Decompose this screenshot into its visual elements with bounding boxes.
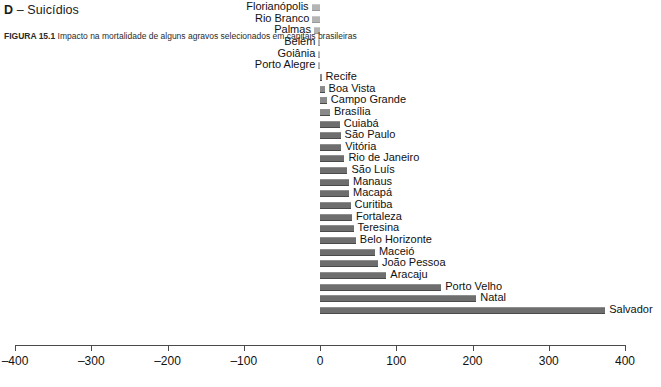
plot-area: FlorianópolisRio BrancoPalmasBelémGoiâni… <box>0 0 661 340</box>
chart-bar-row: João Pessoa <box>0 258 661 269</box>
axis-tick-label: –100 <box>230 354 257 368</box>
bar <box>320 249 375 256</box>
bar <box>320 167 347 174</box>
axis-tick <box>396 345 397 351</box>
chart-bar-row: São Luís <box>0 165 661 176</box>
bar <box>320 144 341 151</box>
axis-tick-label: 400 <box>615 354 635 368</box>
chart-bar-row: Cuiabá <box>0 119 661 130</box>
bar <box>320 121 340 128</box>
chart-bar-row: Manaus <box>0 177 661 188</box>
bar <box>320 132 341 139</box>
axis-tick <box>625 345 626 351</box>
figure-caption: FIGURA 15.1 Impacto na mortalidade de al… <box>4 31 654 41</box>
axis-tick-label: –400 <box>2 354 29 368</box>
bar <box>312 16 320 23</box>
bar-category-label: Aracaju <box>390 268 427 281</box>
chart-bar-row: São Paulo <box>0 130 661 141</box>
chart-bar-row: Macapá <box>0 188 661 199</box>
bar-category-label: Salvador <box>609 303 652 316</box>
bar <box>320 307 605 314</box>
axis-tick-label: 0 <box>317 354 324 368</box>
bar <box>320 284 441 291</box>
chart-bar-row: Teresina <box>0 223 661 234</box>
axis-tick <box>15 345 16 351</box>
chart-bar-row: Campo Grande <box>0 95 661 106</box>
bar <box>320 179 349 186</box>
bar <box>318 62 320 69</box>
bar <box>320 155 344 162</box>
bar <box>320 74 322 81</box>
chart-bar-row: Salvador <box>0 305 661 316</box>
axis-tick <box>91 345 92 351</box>
axis-tick <box>168 345 169 351</box>
bar <box>312 4 320 11</box>
bar <box>320 190 349 197</box>
bar <box>320 260 378 267</box>
figure-caption-text: Impacto na mortalidade de alguns agravos… <box>58 31 357 41</box>
chart-bar-row: Fortaleza <box>0 212 661 223</box>
bar <box>320 214 352 221</box>
axis-tick <box>473 345 474 351</box>
bar <box>320 202 351 209</box>
figure-number: FIGURA 15.1 <box>4 31 55 41</box>
axis-tick <box>244 345 245 351</box>
bar <box>320 97 327 104</box>
axis-tick-label: 100 <box>386 354 406 368</box>
chart-bar-row: Belo Horizonte <box>0 235 661 246</box>
axis-tick-label: –300 <box>78 354 105 368</box>
bar <box>320 225 354 232</box>
chart-bar-row: Rio de Janeiro <box>0 153 661 164</box>
x-axis: –400–300–200–1000100200300400 <box>0 345 661 387</box>
chart-bar-row: Maceió <box>0 247 661 258</box>
chart-bar-row: Brasília <box>0 107 661 118</box>
bar <box>320 295 476 302</box>
bar <box>320 86 325 93</box>
chart-bar-row: Aracaju <box>0 270 661 281</box>
bar <box>320 272 386 279</box>
bar <box>320 109 330 116</box>
axis-tick-label: 300 <box>539 354 559 368</box>
bar <box>318 51 320 58</box>
chart-panel: D – Suicídios FlorianópolisRio BrancoPal… <box>0 0 661 387</box>
chart-bar-row: Curitiba <box>0 200 661 211</box>
axis-tick-label: –200 <box>154 354 181 368</box>
bar-category-label: Natal <box>480 291 506 304</box>
bar-category-label: Porto Alegre <box>0 58 315 71</box>
chart-bar-row: Natal <box>0 293 661 304</box>
chart-bar-row: Vitória <box>0 142 661 153</box>
axis-tick <box>320 345 321 351</box>
axis-tick-label: 200 <box>462 354 482 368</box>
chart-bar-row: Porto Velho <box>0 282 661 293</box>
bar <box>320 237 356 244</box>
axis-tick <box>549 345 550 351</box>
